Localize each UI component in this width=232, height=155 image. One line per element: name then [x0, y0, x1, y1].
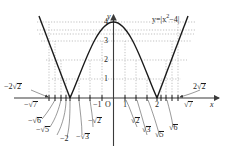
x-tick-label-neg-sqrt7: −√7 — [24, 101, 37, 109]
x-label-neg-sqrt5: −√5 — [36, 126, 49, 134]
x-tick-label-sqrt7: √7 — [184, 101, 192, 109]
x-label-neg-sqrt2: −√2 — [88, 117, 101, 125]
x-tick-label-1: 1 — [123, 101, 127, 109]
x-label-sqrt6: √6 — [169, 124, 177, 132]
x-axis-label: x — [210, 101, 214, 109]
x-label-sqrt5: √5 — [155, 131, 163, 139]
x-label-2sqrt2: 2√2 — [193, 83, 205, 91]
x-label-neg-2: −2 — [60, 135, 69, 143]
math-graph-figure: y=|x2−4| y x O 4 3 2 1 −√7 −1 1 2 √7 −2√… — [0, 0, 232, 155]
y-tick-label-1: 1 — [104, 75, 108, 83]
x-label-sqrt2: √2 — [131, 117, 139, 125]
graph-canvas — [0, 0, 232, 155]
equation-label: y=|x2−4| — [152, 13, 179, 24]
y-tick-label-2: 2 — [104, 56, 108, 64]
x-label-neg-sqrt6: −√6 — [28, 117, 41, 125]
horizontal-guides — [37, 22, 196, 79]
y-tick-label-4: 4 — [104, 18, 108, 26]
x-tick-label-2: 2 — [155, 101, 159, 109]
y-tick-label-3: 3 — [104, 37, 108, 45]
x-tick-label-neg-1: −1 — [93, 101, 102, 109]
x-label-neg-2sqrt2: −2√2 — [4, 83, 21, 91]
equation-minus4: −4 — [169, 15, 178, 24]
equation-bar-close: | — [178, 15, 180, 24]
origin-label: O — [105, 101, 111, 109]
x-label-neg-sqrt3: −√3 — [76, 133, 89, 141]
x-label-sqrt3: √3 — [142, 126, 150, 134]
